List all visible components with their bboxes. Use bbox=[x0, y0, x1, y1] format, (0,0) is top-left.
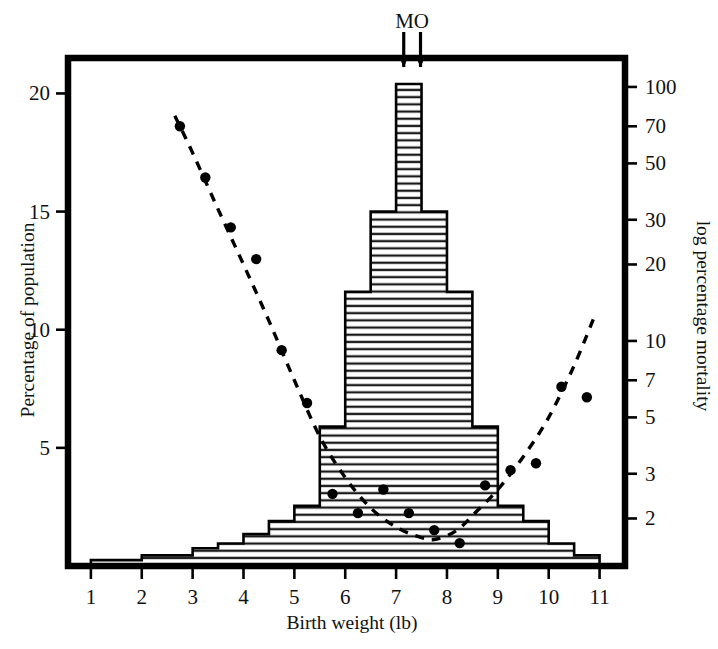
mortality-point[interactable] bbox=[429, 525, 439, 535]
left-tick-label: 5 bbox=[40, 436, 51, 460]
right-tick-label: 30 bbox=[645, 208, 666, 232]
right-tick-label: 20 bbox=[645, 252, 666, 276]
right-tick-label: 5 bbox=[645, 405, 656, 429]
bottom-tick-label: 5 bbox=[289, 585, 300, 609]
mortality-point[interactable] bbox=[378, 484, 388, 494]
histogram-bar[interactable] bbox=[345, 292, 370, 566]
left-tick-label: 20 bbox=[29, 81, 50, 105]
histogram-bar[interactable] bbox=[422, 212, 447, 566]
histogram-bar[interactable] bbox=[269, 521, 294, 566]
right-tick-label: 10 bbox=[645, 329, 666, 353]
right-axis-title: log percentage mortality bbox=[693, 221, 714, 412]
histogram-bar[interactable] bbox=[472, 427, 497, 566]
left-axis-title: Percentage of population bbox=[17, 222, 38, 417]
right-tick-label: 2 bbox=[645, 506, 656, 530]
right-tick-label: 50 bbox=[645, 151, 666, 175]
bottom-tick-label: 4 bbox=[238, 585, 249, 609]
mortality-point[interactable] bbox=[327, 489, 337, 499]
bottom-tick-label: 2 bbox=[137, 585, 148, 609]
mortality-point[interactable] bbox=[302, 398, 312, 408]
mortality-point[interactable] bbox=[582, 392, 592, 402]
histogram-bar[interactable] bbox=[294, 506, 319, 566]
histogram-bar[interactable] bbox=[243, 534, 268, 566]
mortality-point[interactable] bbox=[404, 508, 414, 518]
histogram-bar[interactable] bbox=[218, 544, 243, 566]
mortality-point[interactable] bbox=[200, 172, 210, 182]
birth-weight-mortality-chart: 5101520100705030201075321234567891011 MO… bbox=[0, 0, 718, 649]
histogram-bar[interactable] bbox=[549, 544, 574, 566]
histogram-bar[interactable] bbox=[396, 84, 421, 566]
histogram-bar[interactable] bbox=[447, 292, 472, 566]
right-tick-label: 3 bbox=[645, 462, 656, 486]
mortality-point[interactable] bbox=[353, 508, 363, 518]
mortality-point[interactable] bbox=[276, 345, 286, 355]
mortality-point[interactable] bbox=[531, 458, 541, 468]
mortality-point[interactable] bbox=[226, 222, 236, 232]
mortality-point[interactable] bbox=[556, 382, 566, 392]
mortality-point[interactable] bbox=[480, 480, 490, 490]
right-tick-label: 7 bbox=[645, 368, 656, 392]
mo-label: MO bbox=[395, 9, 429, 33]
bottom-tick-label: 6 bbox=[340, 585, 351, 609]
bottom-axis-title: Birth weight (lb) bbox=[286, 612, 417, 634]
bottom-tick-label: 1 bbox=[86, 585, 97, 609]
mortality-point[interactable] bbox=[251, 254, 261, 264]
histogram-bar[interactable] bbox=[523, 521, 548, 566]
bottom-tick-label: 9 bbox=[493, 585, 504, 609]
histogram-bar[interactable] bbox=[498, 506, 523, 566]
right-tick-label: 70 bbox=[645, 114, 666, 138]
mortality-point[interactable] bbox=[505, 465, 515, 475]
bottom-tick-label: 11 bbox=[589, 585, 609, 609]
bottom-tick-label: 10 bbox=[538, 585, 559, 609]
left-tick-label: 15 bbox=[29, 200, 50, 224]
bottom-tick-label: 3 bbox=[187, 585, 198, 609]
mortality-point[interactable] bbox=[175, 121, 185, 131]
bottom-tick-label: 7 bbox=[391, 585, 402, 609]
figure-canvas: 5101520100705030201075321234567891011 MO… bbox=[0, 0, 718, 649]
bottom-tick-label: 8 bbox=[442, 585, 453, 609]
right-tick-label: 100 bbox=[645, 75, 677, 99]
mortality-point[interactable] bbox=[454, 538, 464, 548]
